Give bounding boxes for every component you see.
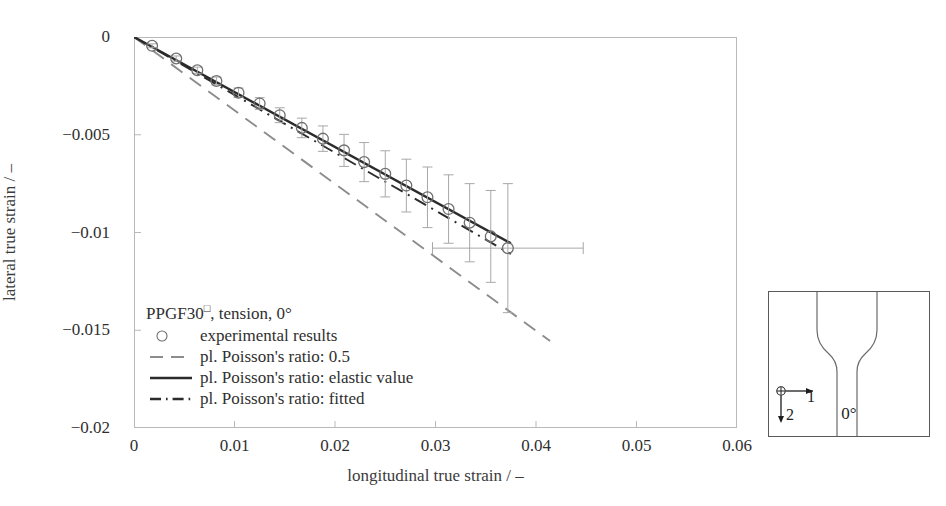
legend-label-experimental: experimental results [200, 325, 337, 346]
legend: PPGF30□, tension, 0° experimental result… [146, 298, 476, 409]
legend-entry-experimental: experimental results [146, 325, 476, 346]
y-tick-label-0: 0 [102, 28, 111, 45]
legend-label-poisson-elastic: pl. Poisson's ratio: elastic value [200, 367, 413, 388]
y-tick-label-1: −0.005 [62, 126, 110, 143]
x-tick-label-2: 0.02 [295, 437, 375, 455]
x-tick-label-5: 0.05 [597, 437, 677, 455]
legend-label-poisson-fitted: pl. Poisson's ratio: fitted [200, 388, 365, 409]
open-circle-marker-icon [146, 325, 200, 346]
specimen-axis-1-label: 1 [807, 388, 815, 406]
specimen-angle-label: 0° [841, 404, 856, 424]
y-tick-label-3: −0.015 [62, 321, 110, 338]
model-line-dash-dot [134, 37, 511, 254]
dashed-line-icon [146, 346, 200, 367]
figure-root: 0−0.005−0.01−0.015−0.02 00.010.020.030.0… [0, 0, 946, 506]
model-line-solid [134, 37, 511, 243]
specimen-axis-2-label: 2 [786, 406, 794, 424]
y-axis-title-text: lateral true strain / – [0, 37, 20, 428]
solid-line-icon [146, 367, 200, 388]
legend-label-poisson-05: pl. Poisson's ratio: 0.5 [200, 346, 350, 367]
x-tick-label-4: 0.04 [496, 437, 576, 455]
model-line-dashed [134, 37, 550, 341]
specimen-diagram: 1 2 0° [768, 291, 930, 437]
legend-entry-poisson-fitted: pl. Poisson's ratio: fitted [146, 388, 476, 409]
legend-entry-poisson-elastic: pl. Poisson's ratio: elastic value [146, 367, 476, 388]
x-tick-label-3: 0.03 [396, 437, 476, 455]
legend-title-prefix: PPGF30 [146, 304, 204, 323]
x-axis-title: longitudinal true strain / – [134, 466, 737, 486]
x-tick-label-0: 0 [94, 437, 174, 455]
y-tick-label-2: −0.01 [71, 224, 110, 241]
x-tick-label-6: 0.06 [697, 437, 777, 455]
y-tick-label-4: −0.02 [71, 419, 110, 436]
x-tick-label-1: 0.01 [195, 437, 275, 455]
dash-dot-line-icon [146, 388, 200, 409]
legend-entry-poisson-05: pl. Poisson's ratio: 0.5 [146, 346, 476, 367]
legend-title: PPGF30□, tension, 0° [146, 298, 476, 324]
y-axis-title: lateral true strain / – [0, 37, 26, 428]
legend-title-suffix: , tension, 0° [210, 304, 291, 323]
